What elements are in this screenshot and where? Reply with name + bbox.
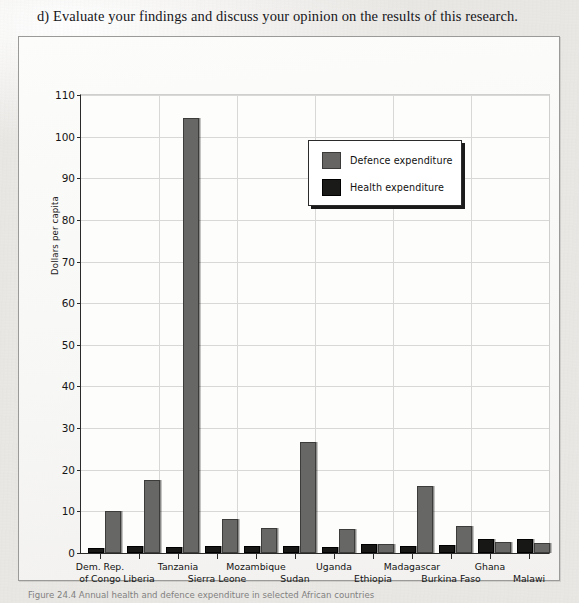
bar-health: [400, 546, 416, 553]
bar-group: [361, 544, 394, 553]
bar-defence: [534, 543, 550, 553]
y-axis-label: Dollars per capita: [50, 196, 60, 275]
bar-health: [88, 548, 104, 553]
y-axis-tick-label: 10: [62, 505, 75, 517]
bar-group: [127, 480, 160, 553]
x-axis-tick-label: Sudan: [280, 573, 309, 585]
bar-group: [244, 528, 277, 553]
x-axis-tick-label: Liberia: [123, 573, 155, 585]
x-axis-tick-mark: [256, 553, 257, 559]
y-axis-tick-label: 40: [62, 380, 75, 392]
y-axis-tick-mark: [77, 553, 81, 554]
x-axis-tick-mark: [529, 553, 530, 559]
x-axis-tick-mark: [178, 553, 179, 559]
x-axis-tick-label: Uganda: [316, 561, 352, 573]
bar-defence: [261, 528, 277, 553]
x-axis-tick-mark: [412, 553, 413, 559]
legend-label-defence: Defence expenditure: [350, 155, 453, 166]
bar-defence: [300, 442, 316, 553]
bar-group: [478, 539, 511, 553]
x-axis-tick-label: Madagascar: [384, 561, 440, 573]
bar-health: [244, 546, 260, 553]
x-axis-tick-label: Dem. Rep.of Congo: [76, 561, 124, 584]
y-axis-tick-label: 70: [62, 256, 75, 268]
x-axis-tick-mark: [373, 553, 374, 559]
x-axis-tick-label: Sierra Leone: [188, 573, 246, 585]
bar-health: [283, 546, 299, 553]
legend-label-health: Health expenditure: [350, 182, 444, 193]
bar-defence: [339, 529, 355, 553]
x-axis-tick-mark: [451, 553, 452, 559]
y-axis-tick-label: 80: [62, 214, 75, 226]
bar-health: [205, 546, 221, 553]
bar-group: [283, 442, 316, 553]
bar-defence: [105, 511, 121, 553]
figure-caption: Figure 24.4 Annual health and defence ex…: [28, 590, 528, 603]
bar-health: [322, 547, 338, 553]
bar-health: [361, 544, 377, 553]
bar-health: [517, 539, 533, 553]
y-axis-tick-label: 0: [68, 547, 75, 559]
defence-swatch-icon: [322, 152, 341, 169]
figure-frame: Dollars per capita 010203040506070809010…: [18, 36, 560, 581]
x-axis-tick-mark: [295, 553, 296, 559]
x-axis-tick-label: Mozambique: [226, 561, 285, 573]
y-axis-tick-label: 60: [62, 297, 75, 309]
bar-defence: [417, 486, 433, 553]
bar-group: [322, 529, 355, 553]
x-axis-tick-mark: [334, 553, 335, 559]
bar-health: [127, 546, 143, 553]
bar-defence: [183, 118, 199, 553]
question-text: d) Evaluate your findings and discuss yo…: [37, 8, 557, 25]
bar-defence: [456, 526, 472, 553]
bar-group: [166, 118, 199, 553]
chart-legend: Defence expenditure Health expenditure: [308, 140, 462, 206]
bar-health: [439, 545, 455, 553]
y-axis-tick-label: 100: [55, 131, 75, 143]
x-axis-tick-mark: [100, 553, 101, 559]
legend-item-health: Health expenditure: [322, 179, 444, 196]
bar-defence: [495, 542, 511, 553]
y-axis-tick-label: 90: [62, 172, 75, 184]
x-axis-tick-label: Malawi: [513, 573, 545, 585]
health-swatch-icon: [322, 179, 341, 196]
y-axis-tick-label: 20: [62, 464, 75, 476]
bar-group: [517, 539, 550, 553]
x-axis-tick-mark: [490, 553, 491, 559]
x-axis-tick-mark: [217, 553, 218, 559]
x-axis-tick-label: Burkina Faso: [421, 573, 480, 585]
x-axis-tick-label: Tanzania: [158, 561, 198, 573]
legend-item-defence: Defence expenditure: [322, 152, 453, 169]
bar-defence: [144, 480, 160, 553]
bar-group: [205, 519, 238, 553]
x-axis-tick-label: Ethiopia: [354, 573, 392, 585]
bar-health: [166, 547, 182, 553]
bar-group: [88, 511, 121, 553]
bar-group: [400, 486, 433, 553]
bar-group: [439, 526, 472, 553]
bar-defence: [222, 519, 238, 553]
x-axis-tick-mark: [139, 553, 140, 559]
y-axis-tick-label: 110: [55, 89, 75, 101]
y-axis-tick-label: 30: [62, 422, 75, 434]
bar-health: [478, 539, 494, 553]
bar-defence: [378, 544, 394, 553]
x-axis-tick-label: Ghana: [475, 561, 505, 573]
y-axis-tick-label: 50: [62, 339, 75, 351]
